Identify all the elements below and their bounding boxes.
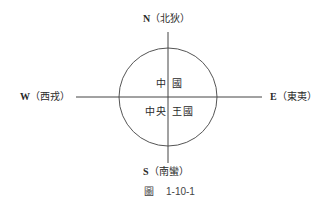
- east-letter: E: [270, 91, 277, 102]
- west-name: （西戎）: [30, 91, 70, 102]
- south-label: S（南蠻）: [143, 166, 189, 178]
- east-label: E（東夷）: [270, 91, 317, 103]
- west-label: W（西戎）: [20, 91, 70, 103]
- center-bottom-left-text: 中央: [145, 106, 167, 118]
- center-bottom-right-text: 王國: [172, 106, 194, 118]
- east-name: （東夷）: [277, 91, 317, 102]
- south-name: （南蠻）: [149, 166, 189, 177]
- center-top-left-text: 中: [156, 78, 167, 90]
- north-name: （北狄）: [150, 13, 190, 24]
- center-top-right-text: 國: [172, 78, 183, 90]
- caption-number: 1-10-1: [166, 186, 195, 197]
- west-letter: W: [20, 91, 30, 102]
- figure-caption: 圖1-10-1: [144, 186, 195, 198]
- caption-prefix: 圖: [144, 186, 154, 197]
- north-label: N（北狄）: [143, 13, 190, 25]
